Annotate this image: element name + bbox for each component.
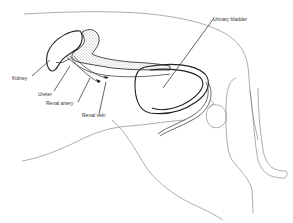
body-outline-belly: [22, 120, 185, 161]
cat-urinary-system-diagram: Kidney Ureter Renal artery Renal vein Ur…: [0, 0, 293, 223]
label-renal-artery: Renal artery: [46, 100, 74, 106]
label-urinary-bladder: Urinary bladder: [213, 16, 248, 22]
tail-outline-outer: [226, 78, 253, 213]
renal-artery-leader: [78, 78, 90, 102]
kidney-leader: [32, 60, 50, 76]
ureter-leader: [54, 66, 70, 91]
body-outline-back: [24, 12, 258, 140]
perirenal-tissue: [72, 30, 170, 70]
hind-leg-outline: [112, 120, 223, 220]
urinary-bladder: [135, 64, 208, 113]
perineal-bulge: [206, 105, 226, 128]
tail-outline-inner: [250, 88, 287, 178]
label-kidney: Kidney: [12, 75, 28, 81]
renal-vein-leader: [99, 82, 106, 114]
label-ureter: Ureter: [38, 91, 52, 97]
label-renal-vein: Renal vein: [82, 112, 106, 118]
urinary-bladder-leader: [163, 18, 214, 88]
